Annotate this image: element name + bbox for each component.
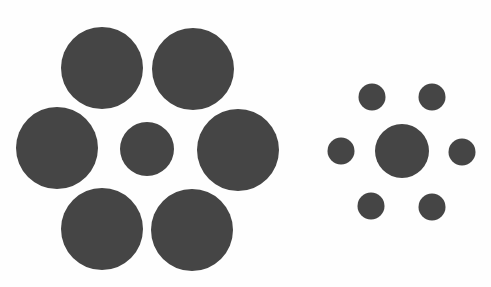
left-circle-group	[16, 27, 279, 271]
surround-circle	[419, 84, 446, 111]
surround-circle	[16, 107, 98, 189]
surround-circle	[151, 189, 233, 271]
surround-circle	[152, 28, 234, 110]
surround-circle	[328, 138, 355, 165]
surround-circle	[358, 193, 385, 220]
ebbinghaus-figure	[0, 0, 491, 287]
center-circle	[120, 122, 174, 176]
surround-circle	[61, 188, 143, 270]
surround-circle	[359, 84, 386, 111]
surround-circle	[61, 27, 143, 109]
surround-circle	[449, 139, 476, 166]
center-circle	[375, 124, 429, 178]
surround-circle	[419, 194, 446, 221]
surround-circle	[197, 109, 279, 191]
right-circle-group	[328, 84, 476, 221]
